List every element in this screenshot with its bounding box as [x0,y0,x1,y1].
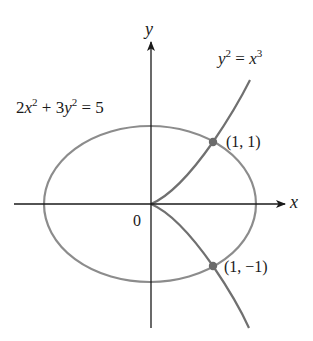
point-label-lower: (1, −1) [224,259,268,275]
intersection-point-lower [209,262,217,270]
ellipse-equation-label: 2x2 + 3y2 = 5 [16,97,104,116]
origin-label: 0 [133,213,141,229]
point-label-upper: (1, 1) [226,134,261,150]
curve-intersection-diagram: y x 0 y2 = x3 2x2 + 3y2 = 5 (1, 1) (1, −… [0,0,313,341]
ellipse-eq-var-y: y [64,98,72,117]
cusp-equation-label: y2 = x3 [218,48,262,67]
ellipse-eq-coef: 2 [16,98,25,117]
cusp-eq-equals: = [231,49,249,68]
ellipse-eq-plus: + 3 [38,98,65,117]
cusp-eq-exp-3: 3 [257,47,263,59]
y-axis-label: y [145,20,153,38]
intersection-point-upper [209,138,217,146]
ellipse-eq-equals: = 5 [77,98,104,117]
diagram-canvas [0,0,313,341]
cusp-eq-var-x: x [249,49,257,68]
cusp-eq-var-y: y [218,49,226,68]
x-axis-label: x [290,193,298,211]
ellipse-eq-var-x: x [25,98,33,117]
